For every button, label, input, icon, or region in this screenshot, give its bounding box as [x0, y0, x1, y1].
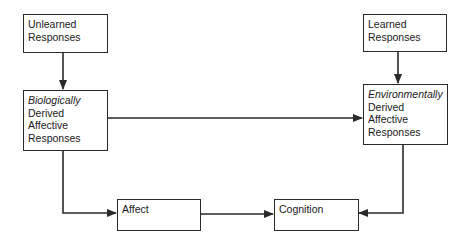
node-label-italic: Biologically: [28, 94, 103, 107]
node-label-italic: Environmentally: [368, 88, 443, 101]
node-label-line: Learned: [368, 18, 442, 31]
node-label-line: Responses: [28, 132, 103, 145]
node-learned-responses: Learned Responses: [363, 14, 447, 52]
node-label-line: Derived: [368, 101, 443, 114]
node-label-line: Responses: [368, 31, 442, 44]
node-label-line: Affective: [28, 119, 103, 132]
arrow-biological-to-affect: [63, 151, 116, 213]
node-label-line: Derived: [28, 107, 103, 120]
node-label-line: Affective: [368, 113, 443, 126]
node-biologically-derived: Biologically Derived Affective Responses: [23, 90, 108, 151]
node-label: Affect: [122, 203, 196, 216]
node-cognition: Cognition: [274, 199, 359, 231]
node-label: Cognition: [279, 203, 354, 216]
node-label-line: Responses: [368, 126, 443, 139]
node-label-line: Responses: [28, 31, 103, 44]
node-label-line: Unlearned: [28, 18, 103, 31]
arrow-environmental-to-cognition: [359, 145, 403, 213]
node-affect: Affect: [117, 199, 201, 231]
node-environmentally-derived: Environmentally Derived Affective Respon…: [363, 84, 448, 145]
node-unlearned-responses: Unlearned Responses: [23, 14, 108, 53]
